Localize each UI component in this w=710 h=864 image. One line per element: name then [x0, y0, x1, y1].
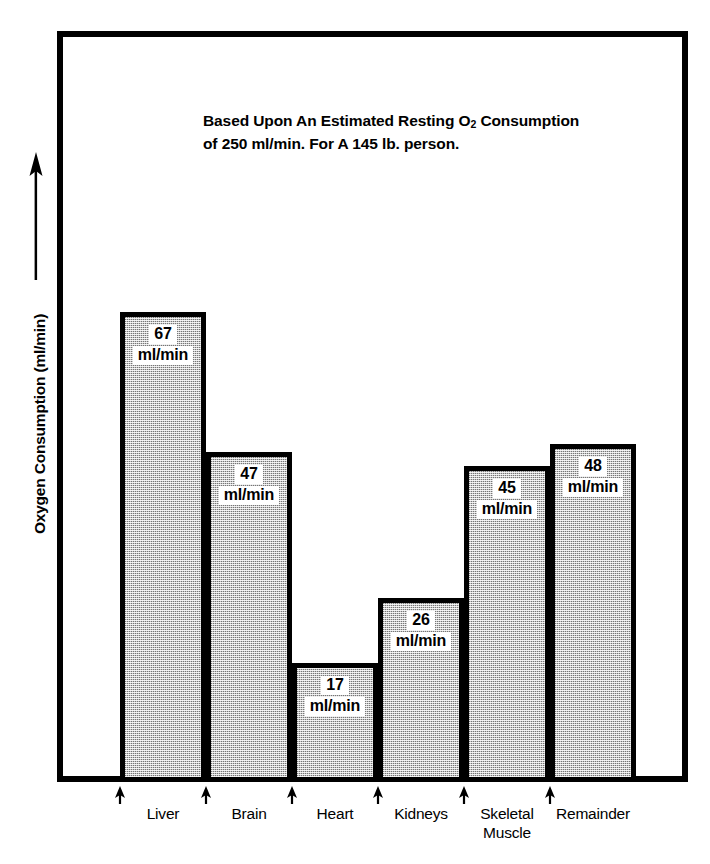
bar-kidneys[interactable]: 26 ml/min	[378, 598, 464, 782]
up-arrow-icon-remainder	[543, 786, 557, 804]
bar-value-brain: 47	[235, 465, 262, 484]
category-text-kidneys: Kidneys	[371, 805, 471, 824]
category-text-heart: Heart	[285, 805, 385, 824]
bar-unit-kidneys: ml/min	[391, 632, 451, 651]
category-text-skeletal-muscle: Skeletal Muscle	[457, 805, 557, 842]
up-arrow-icon-liver	[113, 786, 127, 804]
bar-unit-skeletal-muscle: ml/min	[477, 500, 537, 519]
bar-value-skeletal-muscle: 45	[493, 479, 520, 498]
up-arrow-icon-heart	[285, 786, 299, 804]
bar-unit-remainder: ml/min	[563, 478, 623, 497]
bar-value-remainder: 48	[579, 457, 606, 476]
bar-heart[interactable]: 17 ml/min	[292, 663, 378, 782]
bars-layer: 67 ml/min 47 ml/min 17 ml/min 26 ml/min …	[0, 0, 710, 864]
bar-unit-brain: ml/min	[219, 486, 279, 505]
bar-liver[interactable]: 67 ml/min	[120, 312, 206, 782]
bar-chart-figure: Oxygen Consumption (ml/min) Based Upon A…	[0, 0, 710, 864]
bar-unit-heart: ml/min	[305, 697, 365, 716]
bar-value-liver: 67	[149, 325, 176, 344]
category-text-liver: Liver	[113, 805, 213, 824]
bar-skeletal-muscle[interactable]: 45 ml/min	[464, 466, 550, 782]
category-text-remainder: Remainder	[543, 805, 643, 824]
bar-value-heart: 17	[321, 676, 348, 695]
category-label-kidneys[interactable]: Kidneys	[371, 786, 471, 824]
category-label-skeletal-muscle[interactable]: Skeletal Muscle	[457, 786, 557, 842]
category-label-remainder[interactable]: Remainder	[543, 786, 643, 824]
category-label-heart[interactable]: Heart	[285, 786, 385, 824]
bar-brain[interactable]: 47 ml/min	[206, 452, 292, 782]
category-label-liver[interactable]: Liver	[113, 786, 213, 824]
category-label-brain[interactable]: Brain	[199, 786, 299, 824]
up-arrow-icon-brain	[199, 786, 213, 804]
up-arrow-icon-skeletal-muscle	[457, 786, 471, 804]
bar-remainder[interactable]: 48 ml/min	[550, 444, 636, 782]
category-labels-layer: Liver Brain Heart Kidneys	[0, 786, 710, 864]
category-text-brain: Brain	[199, 805, 299, 824]
up-arrow-icon-kidneys	[371, 786, 385, 804]
bar-unit-liver: ml/min	[133, 346, 193, 365]
bar-value-kidneys: 26	[407, 611, 434, 630]
